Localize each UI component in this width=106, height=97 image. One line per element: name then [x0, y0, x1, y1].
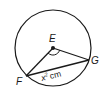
label-f: F	[16, 76, 23, 87]
label-g: G	[91, 55, 99, 66]
radius-eg	[53, 48, 89, 60]
circle-diagram: E F G x2cm	[0, 0, 106, 97]
chord-unit: cm	[49, 68, 62, 80]
label-e: E	[49, 33, 56, 44]
chord-length-label: x2cm	[39, 68, 62, 83]
svg-text:x2cm: x2cm	[39, 68, 62, 83]
center-point-e	[51, 46, 55, 50]
